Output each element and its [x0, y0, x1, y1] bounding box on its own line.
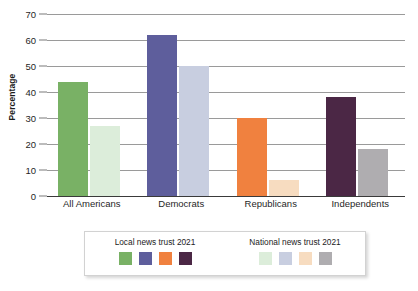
chart-legend: Local news trust 2021National news trust… — [84, 231, 366, 276]
legend-swatch — [259, 252, 272, 265]
legend-swatch — [119, 252, 132, 265]
x-axis-tick-labels: All AmericansDemocratsRepublicansIndepen… — [47, 198, 405, 214]
legend-swatch — [299, 252, 312, 265]
legend-swatch — [139, 252, 152, 265]
y-axis-tick-mark — [39, 144, 47, 145]
legend-swatch-row — [119, 252, 192, 265]
y-axis-tick-label: 0 — [31, 191, 36, 202]
bar — [179, 66, 209, 196]
y-axis-tick-mark — [39, 14, 47, 15]
y-axis-tick-mark — [39, 92, 47, 93]
legend-group: Local news trust 2021 — [85, 232, 225, 265]
legend-title: National news trust 2021 — [249, 237, 340, 247]
y-axis-tick-labels: 010203040506070 — [0, 14, 47, 196]
legend-group: National news trust 2021 — [225, 232, 365, 265]
legend-title: Local news trust 2021 — [115, 237, 196, 247]
bar — [90, 126, 120, 196]
plot-area — [47, 14, 405, 196]
bar — [58, 82, 88, 196]
x-axis-tick-label: Independents — [331, 198, 389, 209]
bar — [237, 118, 267, 196]
y-axis-tick-label: 70 — [25, 9, 36, 20]
bar — [358, 149, 388, 196]
bars-layer — [47, 14, 405, 196]
bar — [147, 35, 177, 196]
x-axis-tick-label: Democrats — [158, 198, 204, 209]
y-axis-tick-label: 10 — [25, 165, 36, 176]
y-axis-tick-label: 50 — [25, 61, 36, 72]
bar — [326, 97, 356, 196]
bar — [269, 180, 299, 196]
x-axis-tick-label: All Americans — [63, 198, 121, 209]
y-axis-tick-mark — [39, 118, 47, 119]
y-axis-tick-mark — [39, 66, 47, 67]
legend-swatch — [159, 252, 172, 265]
legend-swatch — [179, 252, 192, 265]
y-axis-tick-label: 40 — [25, 87, 36, 98]
legend-swatch-row — [259, 252, 332, 265]
legend-swatch — [279, 252, 292, 265]
bar-chart: Percentage 010203040506070 All Americans… — [0, 0, 418, 291]
y-axis-tick-label: 20 — [25, 139, 36, 150]
y-axis-tick-mark — [39, 196, 47, 197]
x-axis-tick-label: Republicans — [245, 198, 297, 209]
y-axis-tick-mark — [39, 40, 47, 41]
y-axis-tick-label: 30 — [25, 113, 36, 124]
y-axis-tick-mark — [39, 170, 47, 171]
y-axis-tick-label: 60 — [25, 35, 36, 46]
legend-swatch — [319, 252, 332, 265]
